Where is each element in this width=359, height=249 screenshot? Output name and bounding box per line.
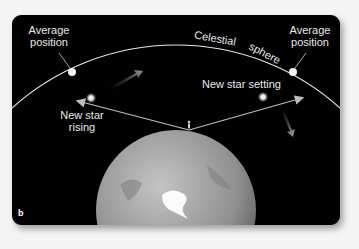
label-line: position <box>284 36 336 48</box>
label-line: position <box>24 36 74 48</box>
new-star-setting-label: New star setting <box>202 78 302 90</box>
average-position-left-label: Average position <box>24 24 74 48</box>
average-position-left-dot <box>68 68 76 76</box>
new-star-rising-label: New star rising <box>56 109 108 133</box>
panel-letter: b <box>18 208 24 218</box>
diagram-frame: Average position Average position Celest… <box>12 15 340 225</box>
label-line: Average <box>24 24 74 36</box>
new-star-rising-icon <box>85 92 97 104</box>
average-position-right-label: Average position <box>284 24 336 48</box>
motion-arrow-right-icon <box>282 112 295 137</box>
earth-globe <box>96 130 256 225</box>
label-line: New star <box>56 109 108 121</box>
label-line: rising <box>56 121 108 133</box>
motion-arrow-left-icon <box>110 70 143 90</box>
label-line: Average <box>284 24 336 36</box>
new-star-setting-icon <box>257 91 269 103</box>
leader-right <box>295 53 306 68</box>
observer-figure-icon <box>188 121 191 129</box>
average-position-right-dot <box>289 68 297 76</box>
leader-left <box>59 53 70 68</box>
